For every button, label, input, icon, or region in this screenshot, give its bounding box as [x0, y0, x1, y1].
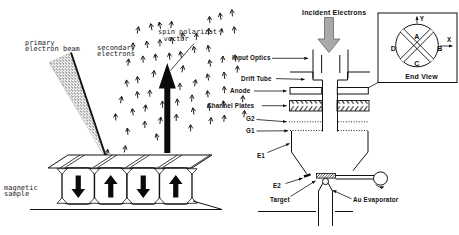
- electrode-e1: [292, 131, 369, 174]
- spin-arrow-icon: [178, 51, 183, 58]
- spin-arrow-icon: [141, 56, 145, 63]
- spin-arrow-icon: [192, 46, 197, 54]
- spin-arrow-icon: [207, 16, 212, 23]
- x-axis-label: X: [447, 36, 452, 43]
- left-panel: primary electron beam secondary electron…: [4, 9, 247, 209]
- spin-arrow-icon: [149, 23, 154, 31]
- channel-plates-label: Channel Plates: [207, 102, 255, 109]
- spin-arrow-icon: [189, 95, 194, 102]
- spin-arrow-icon: [205, 73, 210, 81]
- target-rod: [336, 176, 375, 180]
- y-axis-label: Y: [420, 15, 425, 22]
- au-evaporator-label: Au Evaporator: [353, 196, 399, 204]
- spin-arrow-icon: [175, 99, 180, 106]
- spin-arrow-icon: [206, 45, 211, 53]
- spin-polarimeter-figure: primary electron beam secondary electron…: [0, 0, 459, 235]
- end-view-connector-line: [368, 83, 378, 89]
- target-foil: [317, 174, 336, 179]
- spin-polarization-label-2: vector: [164, 35, 189, 43]
- input-optics-label: Input Optics: [232, 54, 271, 62]
- incident-electrons-arrow: [318, 18, 340, 53]
- g2-leader: [257, 120, 287, 122]
- channel-plate-right: [337, 101, 369, 112]
- spin-arrow-icon: [230, 9, 235, 16]
- drift-tube-leader: [276, 79, 305, 80]
- spin-arrow-icon: [205, 90, 210, 97]
- electrode-e2: [304, 174, 311, 176]
- spin-arrow-icon: [218, 28, 224, 36]
- spin-arrow-icon: [122, 145, 127, 153]
- component-labels: Input Optics Drift Tube Anode Channel Pl…: [207, 54, 399, 204]
- sample-domains: [57, 168, 197, 204]
- spin-arrow-icon: [125, 128, 130, 135]
- spin-arrow-icon: [222, 86, 227, 93]
- spin-arrow-icon: [158, 39, 162, 46]
- sample-top-surface: [48, 155, 212, 168]
- anode-label: Anode: [230, 87, 251, 94]
- spin-arrow-icon: [207, 59, 212, 67]
- spin-arrow-icon: [135, 26, 140, 34]
- spin-arrow-icon: [113, 114, 118, 121]
- spin-arrow-icon: [158, 117, 163, 124]
- primary-electron-beam: [49, 52, 106, 156]
- spin-arrow-icon: [135, 76, 140, 83]
- spin-arrow-icon: [145, 41, 150, 48]
- spin-arrow-icon: [143, 104, 148, 111]
- spin-arrow-icon: [174, 114, 178, 121]
- anode-right: [337, 88, 368, 95]
- quadrant-c-label: C: [414, 60, 419, 67]
- spin-arrow-icon: [118, 96, 123, 104]
- spin-arrow-icon: [153, 54, 158, 61]
- incident-electrons-label: Incident Electrons: [302, 9, 366, 16]
- end-view-title: End View: [405, 73, 438, 80]
- secondary-electrons-label-2: electrons: [97, 50, 135, 58]
- rod-manipulator-knob: [374, 172, 388, 185]
- spin-arrow-icon: [130, 108, 135, 115]
- spin-arrow-icon: [193, 79, 198, 86]
- spin-arrow-icon: [143, 121, 147, 128]
- spin-arrow-icon: [218, 13, 223, 20]
- spin-arrow-icon: [167, 53, 172, 60]
- spin-arrow-icon: [222, 72, 227, 79]
- spin-arrow-icon: [208, 117, 213, 124]
- primary-beam-label-2: electron beam: [25, 45, 80, 53]
- anode-left: [290, 88, 322, 95]
- spin-arrow-icon: [232, 26, 237, 33]
- spin-arrow-icon: [124, 80, 129, 87]
- drift-tube-label: Drift Tube: [241, 75, 272, 82]
- target-leader: [291, 181, 316, 197]
- e2-leader: [286, 178, 303, 183]
- spin-arrow-icon: [220, 56, 225, 63]
- spin-arrow-icon: [178, 83, 182, 90]
- spin-arrow-icon: [126, 59, 131, 66]
- quadrant-d-label: D: [391, 45, 396, 52]
- magnetic-sample-label-2: sample: [4, 190, 29, 198]
- quadrant-a-label: A: [414, 33, 419, 40]
- g2-label: G2: [246, 115, 255, 122]
- spin-arrow-icon: [222, 115, 227, 122]
- spin-arrow-icon: [191, 107, 196, 115]
- magnetic-sample: [30, 155, 222, 210]
- sample-baseline-edge: [193, 201, 222, 209]
- e2-label: E2: [273, 182, 281, 189]
- target-label: Target: [270, 196, 290, 204]
- spin-arrow-icon: [151, 70, 156, 77]
- end-view-inset: A B C D Y X End View: [368, 13, 457, 88]
- spin-arrow-icon: [154, 133, 159, 141]
- spin-arrow-icon: [188, 125, 192, 132]
- e1-leader: [268, 144, 290, 153]
- spin-arrow-icon: [235, 66, 239, 73]
- g1-label: G1: [246, 127, 255, 134]
- spin-arrow-icon: [148, 90, 152, 97]
- spin-arrow-icon: [180, 65, 186, 73]
- channel-plate-left: [290, 101, 323, 112]
- input-optics: [313, 50, 348, 79]
- right-panel: Incident Electrons: [207, 9, 457, 227]
- e1-label: E1: [257, 152, 265, 159]
- spin-arrow-icon: [135, 91, 140, 98]
- spin-polarization-arrow: [159, 63, 176, 153]
- au-evaporator-leader: [333, 190, 352, 199]
